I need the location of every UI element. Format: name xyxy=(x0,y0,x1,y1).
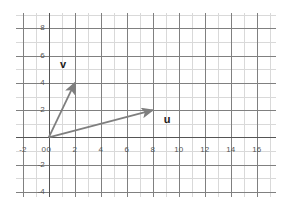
x-tick-label: 0 xyxy=(47,145,52,154)
x-tick-label: 4 xyxy=(99,145,104,154)
x-tick-label: 12 xyxy=(200,145,209,154)
y-tick-label: -2 xyxy=(38,160,46,169)
x-tick-label: 14 xyxy=(226,145,235,154)
y-tick-label: 6 xyxy=(40,51,45,60)
x-tick-label: 10 xyxy=(174,145,183,154)
y-tick-label: 4 xyxy=(40,78,45,87)
x-tick-label: -2 xyxy=(19,145,27,154)
vector-label-v: v xyxy=(60,58,67,70)
y-tick-label: 8 xyxy=(40,23,45,32)
x-tick-label: 16 xyxy=(252,145,261,154)
vector-label-u: u xyxy=(164,113,171,125)
x-tick-label: 8 xyxy=(151,145,156,154)
x-tick-label: 2 xyxy=(73,145,78,154)
origin-tick-label: 0 xyxy=(42,145,47,154)
vector-plot-figure: -20246810121416 8642-2-40 vu xyxy=(0,0,286,203)
coordinate-grid-chart: -20246810121416 8642-2-40 vu xyxy=(0,0,286,203)
y-tick-label: -4 xyxy=(38,187,46,196)
x-tick-label: 6 xyxy=(125,145,130,154)
y-tick-label: 2 xyxy=(40,105,45,114)
